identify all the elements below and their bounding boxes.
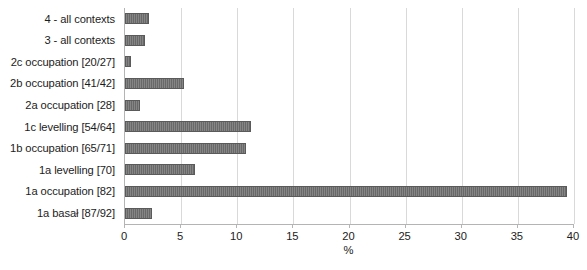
category-label: 1b occupation [65/71] — [0, 138, 120, 160]
bar — [125, 121, 251, 132]
value-axis-title: % — [124, 244, 573, 257]
bar-row — [125, 8, 573, 30]
bar — [125, 56, 131, 67]
bar-row — [125, 159, 573, 181]
tick-mark — [461, 224, 462, 228]
bar — [125, 13, 149, 24]
category-label: 1a levelling [70] — [0, 159, 120, 181]
tick-label: 25 — [398, 229, 410, 243]
bar — [125, 208, 152, 219]
bar — [125, 186, 567, 197]
tick-mark — [236, 224, 237, 228]
tick-mark — [180, 224, 181, 228]
tick-label: 20 — [342, 229, 354, 243]
tick-mark — [573, 224, 574, 228]
tick-label: 40 — [567, 229, 579, 243]
bar — [125, 164, 195, 175]
tick-label: 35 — [511, 229, 523, 243]
horizontal-bar-chart: 4 - all contexts 3 - all contexts 2c occ… — [0, 0, 587, 270]
bar-row — [125, 30, 573, 52]
bar-row — [125, 73, 573, 95]
category-axis: 4 - all contexts 3 - all contexts 2c occ… — [0, 8, 120, 224]
tick-label: 5 — [177, 229, 183, 243]
tick-mark — [517, 224, 518, 228]
tick-mark — [124, 224, 125, 228]
bar — [125, 100, 140, 111]
bar-row — [125, 138, 573, 160]
plot-area — [124, 8, 573, 224]
category-label: 4 - all contexts — [0, 8, 120, 30]
category-label: 1a occupation [82] — [0, 181, 120, 203]
tick-mark — [349, 224, 350, 228]
bar-row — [125, 181, 573, 203]
bar — [125, 78, 184, 89]
category-label: 2b occupation [41/42] — [0, 73, 120, 95]
bar-row — [125, 116, 573, 138]
bar-series — [125, 8, 573, 224]
tick-label: 10 — [230, 229, 242, 243]
category-label: 2a occupation [28] — [0, 94, 120, 116]
tick-mark — [405, 224, 406, 228]
category-label: 1a basał [87/92] — [0, 202, 120, 224]
bar-row — [125, 51, 573, 73]
bar — [125, 143, 246, 154]
gridline — [574, 8, 575, 224]
bar-row — [125, 94, 573, 116]
tick-label: 30 — [455, 229, 467, 243]
value-axis-tick-labels: 0510152025303540 — [124, 229, 573, 245]
tick-label: 15 — [286, 229, 298, 243]
tick-mark — [292, 224, 293, 228]
tick-label: 0 — [121, 229, 127, 243]
bar-row — [125, 202, 573, 224]
category-label: 1c levelling [54/64] — [0, 116, 120, 138]
bar — [125, 35, 145, 46]
category-label: 3 - all contexts — [0, 30, 120, 52]
category-label: 2c occupation [20/27] — [0, 51, 120, 73]
